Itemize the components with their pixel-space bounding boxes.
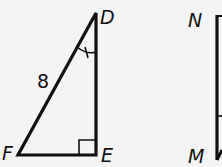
vertex-label-f: F (2, 142, 14, 164)
geometry-diagram: D F E 8 N M (0, 0, 222, 167)
right-angle-marker-e (79, 140, 96, 155)
triangle-def: D F E 8 (2, 6, 115, 166)
side-length-df: 8 (37, 70, 49, 92)
vertex-label-d: D (100, 6, 115, 28)
triangle-def-outline (18, 13, 96, 155)
triangle-mn: N M (188, 9, 222, 167)
vertex-label-n: N (188, 9, 202, 31)
vertex-label-m: M (188, 145, 204, 167)
vertex-label-e: E (101, 144, 113, 166)
